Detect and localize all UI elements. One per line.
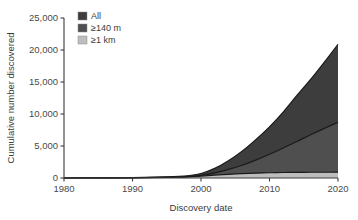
- x-tick-label: 1990: [122, 183, 143, 194]
- x-tick-label: 2010: [259, 183, 280, 194]
- legend-swatch-1: [78, 12, 87, 20]
- x-tick-label: 2020: [327, 183, 348, 194]
- x-axis-title: Discovery date: [170, 202, 233, 213]
- cumulative-discoveries-area-chart: 05,00010,00015,00020,00025,000 198019902…: [0, 0, 358, 220]
- area-series-group: [64, 44, 338, 178]
- legend-label-3: ≥1 km: [91, 35, 115, 45]
- y-axis-tick-labels: 05,00010,00015,00020,00025,000: [29, 12, 58, 183]
- chart-figure: 05,00010,00015,00020,00025,000 198019902…: [0, 0, 358, 220]
- y-tick-label: 25,000: [29, 12, 58, 23]
- y-axis-title: Cumulative number discovered: [5, 33, 16, 164]
- y-tick-label: 20,000: [29, 44, 58, 55]
- y-tick-label: 10,000: [29, 108, 58, 119]
- x-tick-label: 2000: [190, 183, 211, 194]
- y-tick-label: 5,000: [34, 140, 58, 151]
- y-tick-label: 15,000: [29, 76, 58, 87]
- x-axis-tick-labels: 19801990200020102020: [53, 183, 348, 194]
- chart-legend: All≥140 m≥1 km: [78, 11, 121, 45]
- legend-label-2: ≥140 m: [91, 23, 121, 33]
- y-tick-label: 0: [53, 172, 58, 183]
- legend-swatch-2: [78, 24, 87, 32]
- legend-swatch-3: [78, 36, 87, 44]
- x-tick-label: 1980: [53, 183, 74, 194]
- legend-label-1: All: [91, 11, 101, 21]
